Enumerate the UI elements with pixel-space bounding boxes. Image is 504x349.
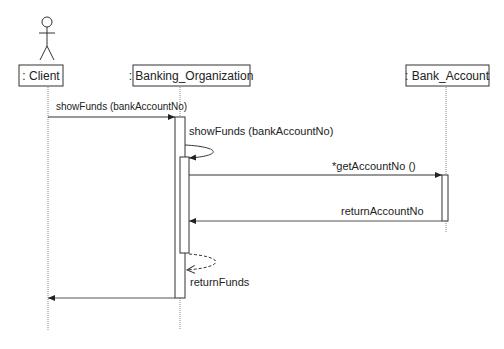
actor-icon xyxy=(39,17,55,60)
lifeline-label: : Bank_Account xyxy=(405,69,490,83)
actor-head xyxy=(42,17,52,27)
actor-right-leg xyxy=(47,46,54,60)
message-label: *getAccountNo () xyxy=(332,160,416,172)
sequence-diagram: : Client : Banking_Organization : Bank_A… xyxy=(0,0,504,349)
lifeline-banking-organization[interactable]: : Banking_Organization xyxy=(129,65,254,86)
message-getaccountno: *getAccountNo () xyxy=(189,160,442,175)
actor-left-leg xyxy=(40,46,47,60)
message-label: returnFunds xyxy=(190,276,250,288)
lifeline-label: : Banking_Organization xyxy=(129,69,254,83)
lifeline-label: : Client xyxy=(22,69,60,83)
message-returnfunds: returnFunds xyxy=(187,254,250,288)
lifeline-bank-account[interactable]: : Bank_Account xyxy=(405,65,490,86)
message-label: showFunds (bankAccountNo) xyxy=(56,101,187,112)
lifeline-client[interactable]: : Client xyxy=(19,65,63,86)
message-returnaccountno: returnAccountNo xyxy=(189,205,442,221)
message-showfunds: showFunds (bankAccountNo) xyxy=(48,101,187,117)
activation-bank-account xyxy=(442,175,448,221)
message-self-showfunds: showFunds (bankAccountNo) xyxy=(185,125,333,158)
self-call-arrow xyxy=(185,145,213,158)
self-return-arrow xyxy=(187,254,216,270)
activation-bank-org-nested xyxy=(180,157,189,253)
message-label: returnAccountNo xyxy=(341,205,424,217)
message-label: showFunds (bankAccountNo) xyxy=(189,125,333,137)
